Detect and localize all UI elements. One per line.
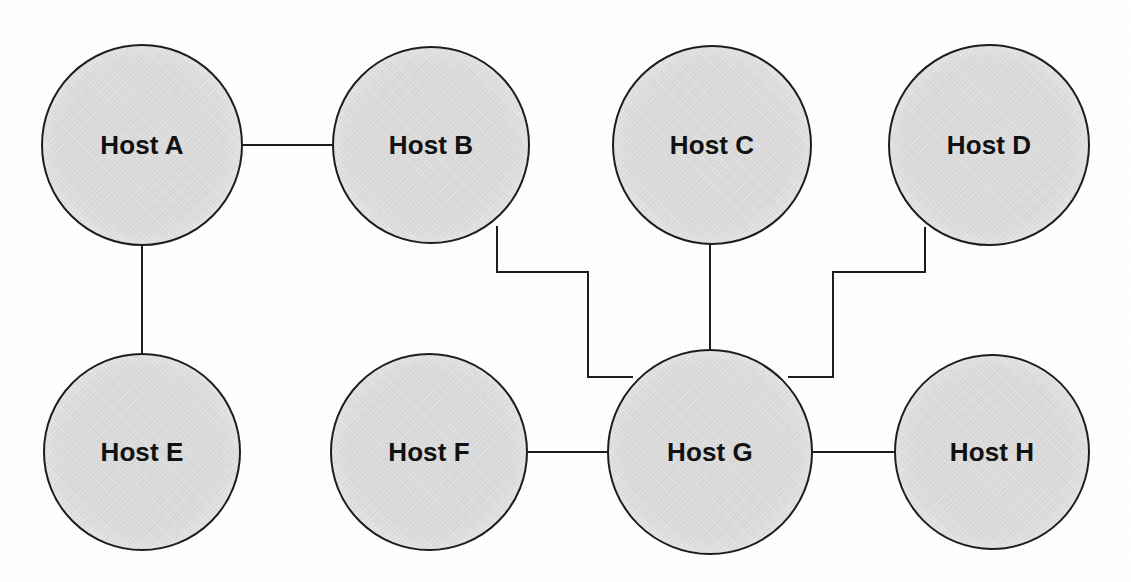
- host-node-label-d: Host D: [947, 130, 1031, 161]
- host-node-g[interactable]: Host G: [607, 349, 813, 555]
- host-node-d[interactable]: Host D: [888, 44, 1090, 246]
- host-node-label-h: Host H: [950, 437, 1034, 468]
- host-node-label-e: Host E: [101, 437, 184, 468]
- host-node-label-c: Host C: [670, 130, 754, 161]
- host-node-label-a: Host A: [100, 130, 183, 161]
- host-node-b[interactable]: Host B: [332, 46, 530, 244]
- host-node-label-b: Host B: [389, 130, 473, 161]
- edge-d-g: [789, 228, 925, 377]
- host-node-h[interactable]: Host H: [894, 354, 1090, 550]
- network-topology-diagram: Host AHost BHost CHost DHost EHost FHost…: [0, 0, 1131, 582]
- host-node-c[interactable]: Host C: [612, 45, 812, 245]
- edge-b-g: [497, 227, 632, 377]
- host-node-e[interactable]: Host E: [43, 353, 241, 551]
- host-node-f[interactable]: Host F: [330, 353, 528, 551]
- host-node-label-f: Host F: [388, 437, 469, 468]
- host-node-a[interactable]: Host A: [41, 44, 243, 246]
- host-node-label-g: Host G: [667, 437, 753, 468]
